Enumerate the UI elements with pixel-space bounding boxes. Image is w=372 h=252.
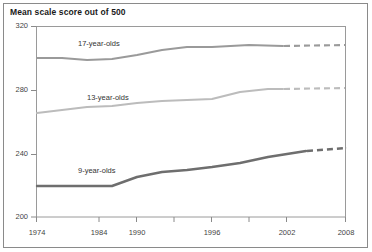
x-tick-label-2008: 2008 [326, 228, 366, 237]
series-17-dashed [284, 45, 345, 46]
y-tick-label-200: 200 [6, 212, 28, 221]
x-tick-label-1996: 1996 [192, 228, 232, 237]
x-tick-label-2002: 2002 [267, 228, 307, 237]
series-13-dashed [284, 88, 345, 89]
y-tick-label-240: 240 [6, 149, 28, 158]
series-9-dashed [307, 148, 347, 151]
plot-area-border [37, 27, 346, 218]
y-tick-label-280: 280 [6, 85, 28, 94]
x-tick-label-1974: 1974 [17, 228, 57, 237]
series-label-9-year-olds: 9-year-olds [78, 166, 116, 175]
chart-figure: Mean scale score out of 500 [0, 0, 372, 252]
series-17-solid [37, 45, 283, 60]
series-line-13-year-olds [37, 88, 345, 113]
x-axis-ticks [37, 217, 346, 222]
series-label-13-year-olds: 13-year-olds [87, 93, 129, 102]
series-13-solid [37, 89, 283, 113]
x-tick-label-1984: 1984 [79, 228, 119, 237]
series-label-17-year-olds: 17-year-olds [78, 39, 120, 48]
y-axis-ticks [31, 27, 37, 218]
line-chart-plot [0, 0, 372, 252]
x-tick-label-1990: 1990 [117, 228, 157, 237]
y-tick-label-320: 320 [6, 21, 28, 30]
